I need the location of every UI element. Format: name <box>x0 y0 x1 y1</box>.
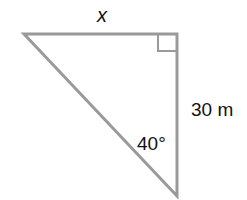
right-triangle <box>24 34 177 196</box>
triangle-diagram: x 30 m 40° <box>0 0 247 200</box>
side-label-x: x <box>96 4 108 26</box>
angle-label-40: 40° <box>137 133 166 154</box>
side-label-30m: 30 m <box>191 99 233 120</box>
right-angle-marker <box>158 34 177 51</box>
